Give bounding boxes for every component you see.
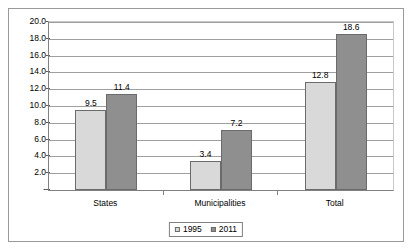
y-tick-label: 14.0 [12,67,46,76]
legend-entry-1995: 1995 [175,225,202,234]
legend-label-2011: 2011 [219,225,237,234]
bar-value-label: 18.6 [343,23,360,32]
x-category-label-total: Total [326,198,344,208]
y-tick-label: 12.0 [12,84,46,93]
y-tick-label: 4.0 [12,151,46,160]
bar-states-2011 [106,94,137,190]
bar-states-1995 [75,110,106,190]
legend-swatch-icon-1995 [175,227,180,232]
y-tick-label: - [12,185,46,194]
x-tick-mark [277,191,278,195]
y-tick-label: 8.0 [12,118,46,127]
x-axis: StatesMunicipalitiesTotal [48,191,394,213]
bar-value-label: 7.2 [231,119,243,128]
gridline [49,22,393,23]
bar-value-label: 11.4 [114,83,130,92]
y-tick-label: 6.0 [12,134,46,143]
bar-total-2011 [336,34,367,190]
bar-value-label: 12.8 [312,71,329,80]
bar-total-1995 [305,82,336,190]
x-tick-mark [163,191,164,195]
legend-swatch-icon-2011 [211,227,216,232]
y-tick-label: 20.0 [12,17,46,26]
chart-legend: 19952011 [169,222,243,237]
bar-municipalities-2011 [221,130,252,190]
y-tick-label: 18.0 [12,34,46,43]
plot-area: 9.511.43.47.212.818.6 [48,21,394,191]
bar-municipalities-1995 [190,161,221,190]
x-category-label-states: States [93,198,117,208]
y-axis: 20.018.016.014.012.010.08.06.04.02.0- [9,21,46,191]
x-category-label-municipalities: Municipalities [194,198,245,208]
y-tick-label: 16.0 [12,50,46,59]
y-tick-label: 2.0 [12,168,46,177]
bar-value-label: 9.5 [85,99,97,108]
legend-entry-2011: 2011 [211,225,237,234]
y-tick-label: 10.0 [12,101,46,110]
bar-value-label: 3.4 [200,150,212,159]
legend-label-1995: 1995 [183,225,202,234]
chart-frame: 20.018.016.014.012.010.08.06.04.02.0- 9.… [8,8,404,242]
